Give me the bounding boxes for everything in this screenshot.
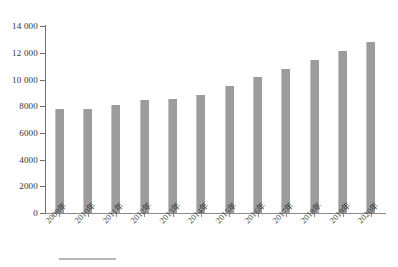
bar — [310, 60, 319, 213]
bar — [225, 86, 234, 213]
bar — [168, 99, 177, 213]
bar — [281, 69, 290, 213]
bar — [196, 95, 205, 213]
y-axis-tick-label: 14 000 — [0, 22, 38, 31]
y-axis-tick-label: 6000 — [0, 129, 38, 138]
y-axis-tick-label: 4000 — [0, 156, 38, 165]
y-axis-tick-label: 2000 — [0, 182, 38, 191]
y-axis-tick — [40, 26, 45, 27]
y-axis-tick — [40, 133, 45, 134]
bar — [338, 51, 347, 213]
y-axis-tick-label: 12 000 — [0, 49, 38, 58]
y-axis-tick — [40, 106, 45, 107]
bar — [111, 105, 120, 213]
bar — [140, 100, 149, 213]
bar — [253, 77, 262, 213]
y-axis-tick — [40, 53, 45, 54]
bar — [83, 109, 92, 213]
bar — [55, 109, 64, 213]
y-axis-tick-label: 10 000 — [0, 76, 38, 85]
plot-area — [45, 26, 385, 213]
y-axis-tick — [40, 186, 45, 187]
y-axis-tick-label: 0 — [0, 209, 38, 218]
y-axis-tick — [40, 160, 45, 161]
page-rule-artifact — [59, 258, 116, 260]
bar-chart-figure: 0 2000 4000 6000 8000 10 000 12 000 14 0… — [0, 0, 398, 267]
bar — [366, 42, 375, 213]
y-axis-tick-label: 8000 — [0, 102, 38, 111]
y-axis-tick — [40, 213, 45, 214]
y-axis-tick — [40, 80, 45, 81]
